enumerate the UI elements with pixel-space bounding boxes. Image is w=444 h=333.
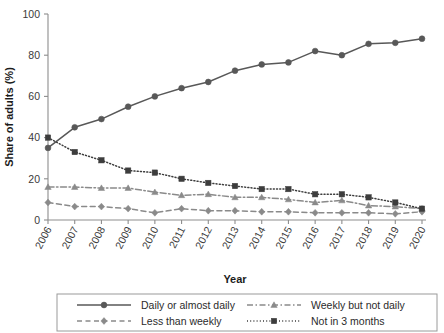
data-point — [99, 116, 105, 122]
data-point — [152, 209, 158, 216]
data-point — [125, 205, 131, 212]
x-tick-label: 2018 — [353, 224, 375, 250]
legend-item-less-than-weekly[interactable]: Less than weekly — [77, 315, 222, 327]
data-point — [178, 205, 184, 212]
x-tick-label: 2020 — [406, 224, 428, 250]
x-tick-label: 2015 — [273, 224, 295, 250]
data-point — [365, 209, 371, 216]
data-point — [312, 192, 317, 197]
y-tick-label: 20 — [28, 173, 40, 185]
data-point — [45, 135, 50, 140]
legend-label: Less than weekly — [141, 315, 222, 327]
y-axis-title: Share of adults (%) — [3, 67, 15, 167]
data-point — [125, 168, 130, 173]
data-point — [286, 186, 291, 191]
x-axis-title: Year — [223, 273, 247, 285]
series-line — [48, 39, 422, 148]
data-point — [392, 40, 398, 46]
data-point — [179, 85, 185, 91]
data-point — [366, 195, 371, 200]
x-tick-label: 2013 — [219, 224, 241, 250]
x-tick-label: 2019 — [379, 224, 401, 250]
series-group — [45, 36, 425, 217]
y-tick-label: 60 — [28, 90, 40, 102]
data-point — [232, 207, 238, 214]
data-point — [339, 209, 345, 216]
x-tick-label: 2008 — [86, 224, 108, 250]
x-tick-label: 2010 — [139, 224, 161, 250]
legend-marker — [101, 302, 107, 308]
data-point — [365, 202, 371, 208]
data-point — [98, 203, 104, 210]
data-point — [179, 176, 184, 181]
line-chart: 0204060801002006200720082009201020112012… — [0, 0, 444, 333]
y-tick-label: 80 — [28, 49, 40, 61]
legend-label: Daily or almost daily — [141, 299, 236, 311]
data-point — [205, 79, 211, 85]
y-tick-label: 0 — [34, 214, 40, 226]
data-point — [152, 94, 158, 100]
x-tick-label: 2014 — [246, 224, 268, 250]
x-tick-label: 2006 — [32, 224, 54, 250]
data-point — [419, 36, 425, 42]
data-point — [206, 180, 211, 185]
legend-marker — [271, 318, 276, 323]
data-point — [419, 206, 424, 211]
legend-item-weekly-but-not-daily[interactable]: Weekly but not daily — [247, 299, 406, 311]
data-point — [312, 209, 318, 216]
data-point — [72, 149, 77, 154]
legend-item-daily-or-almost-daily[interactable]: Daily or almost daily — [77, 299, 236, 311]
y-tick-label: 100 — [22, 8, 40, 20]
data-point — [45, 199, 51, 206]
data-point — [205, 207, 211, 214]
data-point — [72, 203, 78, 210]
series-daily-or-almost-daily — [45, 36, 425, 151]
legend-item-not-in-3-months[interactable]: Not in 3 months — [247, 315, 385, 327]
x-tick-label: 2011 — [166, 224, 187, 250]
legend-label: Weekly but not daily — [311, 299, 406, 311]
data-point — [312, 48, 318, 54]
data-point — [339, 192, 344, 197]
data-point — [178, 192, 184, 198]
data-point — [125, 104, 131, 110]
x-tick-label: 2007 — [59, 224, 81, 250]
data-point — [393, 200, 398, 205]
data-point — [232, 68, 238, 74]
data-point — [392, 210, 398, 217]
data-point — [232, 183, 237, 188]
data-point — [259, 208, 265, 215]
y-tick-label: 40 — [28, 131, 40, 143]
data-point — [72, 124, 78, 130]
axis-labels-group: 0204060801002006200720082009201020112012… — [3, 8, 428, 285]
data-point — [259, 186, 264, 191]
data-point — [99, 158, 104, 163]
x-tick-label: 2016 — [299, 224, 321, 250]
data-point — [45, 145, 51, 151]
legend-label: Not in 3 months — [311, 315, 385, 327]
data-point — [285, 208, 291, 215]
data-point — [339, 52, 345, 58]
data-point — [366, 41, 372, 47]
legend-marker — [101, 318, 107, 325]
data-point — [286, 60, 292, 66]
chart-legend: Daily or almost dailyWeekly but not dail… — [57, 294, 437, 331]
x-tick-label: 2017 — [326, 224, 348, 250]
data-point — [152, 170, 157, 175]
data-point — [259, 62, 265, 68]
x-tick-label: 2012 — [192, 224, 214, 250]
chart-container: 0204060801002006200720082009201020112012… — [0, 0, 444, 333]
x-tick-label: 2009 — [112, 224, 134, 250]
